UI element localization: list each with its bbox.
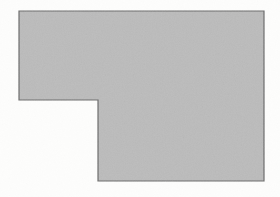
l-shape-polygon — [19, 11, 264, 181]
figure-canvas: A solid light-gray L-shaped hexagon (a r… — [0, 0, 280, 197]
l-shape-figure — [0, 0, 280, 197]
